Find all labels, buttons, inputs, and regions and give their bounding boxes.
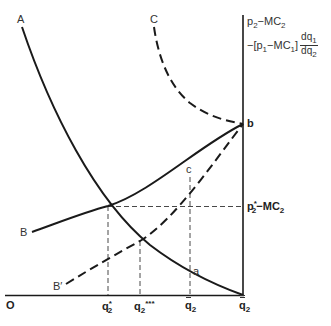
curve-A [22,27,243,295]
curve-label-B-prime: B′ [53,281,62,292]
curve-label-B: B [20,227,27,238]
point-label-b: b [247,118,254,129]
y-tick-p2-star-minus-mc2: p*2−MC2 [247,200,284,215]
point-label-c: c [186,164,192,175]
curve-C [154,27,243,124]
y-axis-label-line2: −[p1−MC1]dq1dq2 [247,32,318,60]
origin-label: O [6,300,15,311]
point-label-a: a [193,266,199,277]
x-tick-q2-star: q*2 [102,300,112,315]
curve-B-prime [66,124,243,284]
derivative-fraction: dq1dq2 [300,32,318,60]
curve-label-A: A [17,14,24,25]
curve-B [32,124,243,232]
y-axis-label-line1: p2−MC2 [247,16,286,30]
curve-label-C: C [150,14,158,25]
x-tick-q2-bar: q2 [239,300,250,314]
x-tick-q2-triple-star: q2*** [134,300,155,315]
x-tick-q2-tilde: q2 [185,300,196,314]
